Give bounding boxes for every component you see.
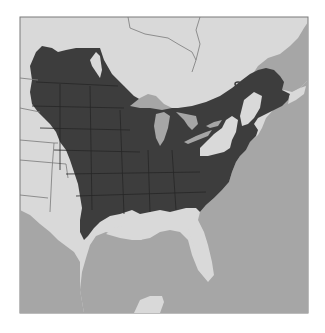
range-map [0,0,325,333]
map-svg [0,0,325,333]
